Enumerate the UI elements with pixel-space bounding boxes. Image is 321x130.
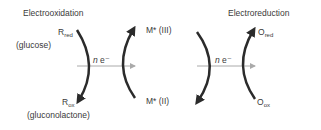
electroreduction-title: Electroreduction [228, 8, 289, 18]
arc-mid-left [123, 30, 135, 98]
o-ox-label: Oox [257, 97, 270, 108]
m-ii-label: M* (II) [146, 96, 169, 106]
gluconolactone-label: (gluconolactone) [27, 110, 90, 120]
r-ox-label: Rox [62, 97, 74, 108]
m-iii-label: M* (III) [146, 25, 172, 35]
r-red-label: Rred [58, 27, 73, 38]
electron-label-right: n e⁻ [215, 55, 232, 65]
electron-label-left: n e⁻ [93, 55, 110, 65]
arc-right [243, 31, 255, 99]
arc-left [77, 30, 89, 100]
o-red-label: Ored [258, 27, 273, 38]
glucose-label: (glucose) [16, 40, 51, 50]
electrooxidation-title: Electrooxidation [23, 8, 83, 18]
